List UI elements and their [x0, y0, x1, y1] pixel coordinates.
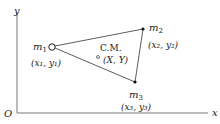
- origin-label: O: [4, 108, 12, 119]
- mass-1-marker: [49, 44, 55, 50]
- mass-1-label: m1: [33, 41, 47, 54]
- x-axis-label: x: [212, 107, 218, 118]
- y-axis-label: y: [13, 5, 20, 16]
- mass-3-coord: (x₃, y₃): [121, 102, 152, 112]
- mass-3-marker: [133, 80, 136, 83]
- mass-2-label: m2: [149, 22, 163, 35]
- mass-2-marker: [141, 27, 144, 30]
- edge-m1-m3: [55, 48, 135, 82]
- cm-label: C.M.: [100, 43, 122, 53]
- center-of-mass-diagram: y x O m1 (x₁, y₁) m2 (x₂, y₂) m3 (x₃, y₃…: [0, 0, 220, 124]
- edge-m2-m3: [135, 29, 143, 82]
- edge-m1-m2: [55, 29, 143, 46]
- cm-coord: (X, Y): [103, 55, 129, 65]
- cm-marker: [97, 56, 100, 59]
- mass-2-coord: (x₂, y₂): [148, 40, 179, 50]
- mass-3-label: m3: [129, 89, 143, 102]
- mass-1-coord: (x₁, y₁): [31, 58, 62, 68]
